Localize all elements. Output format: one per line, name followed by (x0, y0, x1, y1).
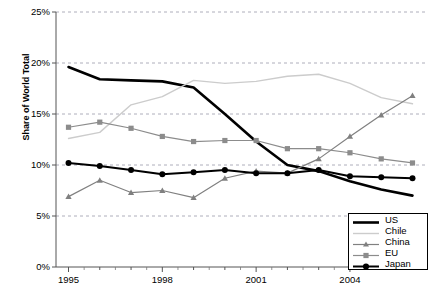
series-line (69, 96, 413, 198)
chart-container: Share of World Total US Chile China EU (0, 0, 432, 295)
series-marker (410, 160, 415, 165)
series-marker (379, 156, 384, 161)
legend-label-china: China (381, 236, 410, 247)
series-marker (409, 175, 415, 181)
chart-legend: US Chile China EU Japan (348, 213, 428, 270)
legend-label-eu: EU (381, 247, 398, 258)
series-marker (409, 93, 415, 99)
legend-label-chile: Chile (381, 225, 407, 236)
series-marker (128, 126, 133, 131)
series-marker (378, 174, 384, 180)
y-axis-tick-label: 15% (8, 108, 50, 119)
series-marker (66, 160, 72, 166)
series-marker (66, 125, 71, 130)
series-marker (97, 120, 102, 125)
series-marker (316, 167, 322, 173)
series-marker (97, 163, 103, 169)
x-axis-tick-label: 2001 (231, 274, 281, 285)
series-marker (222, 138, 227, 143)
series-marker (160, 134, 165, 139)
legend-item-us[interactable]: US (349, 214, 427, 225)
series-marker (159, 171, 165, 177)
legend-item-japan[interactable]: Japan (349, 258, 427, 269)
series-marker (316, 146, 321, 151)
series-marker (253, 170, 259, 176)
legend-swatch-eu (351, 247, 381, 258)
legend-label-japan: Japan (381, 258, 411, 269)
legend-swatch-us (351, 214, 381, 225)
series-marker (284, 170, 290, 176)
legend-item-eu[interactable]: EU (349, 247, 427, 258)
series-marker (65, 194, 71, 200)
y-axis-tick-label: 20% (8, 57, 50, 68)
series-marker (347, 133, 353, 139)
legend-label-us: US (381, 214, 398, 225)
y-axis-tick-label: 5% (8, 210, 50, 221)
series-marker (128, 167, 134, 173)
y-axis-tick-label: 0% (8, 261, 50, 272)
series-marker (222, 167, 228, 173)
x-axis-tick-label: 1998 (137, 274, 187, 285)
series-marker (347, 173, 353, 179)
y-axis-tick-label: 10% (8, 159, 50, 170)
x-axis-tick-label: 2004 (325, 274, 375, 285)
series-line (69, 163, 413, 178)
legend-item-china[interactable]: China (349, 236, 427, 247)
legend-swatch-chile (351, 225, 381, 236)
series-marker (285, 146, 290, 151)
y-axis-tick-label: 25% (8, 6, 50, 17)
series-marker (97, 177, 103, 183)
series-japan (66, 160, 416, 181)
series-marker (378, 112, 384, 118)
legend-swatch-china (351, 236, 381, 247)
series-marker (347, 150, 352, 155)
series-marker (191, 139, 196, 144)
x-axis-tick-label: 1995 (44, 274, 94, 285)
series-marker (191, 169, 197, 175)
series-marker (254, 138, 259, 143)
legend-swatch-japan (351, 258, 381, 269)
legend-item-chile[interactable]: Chile (349, 225, 427, 236)
